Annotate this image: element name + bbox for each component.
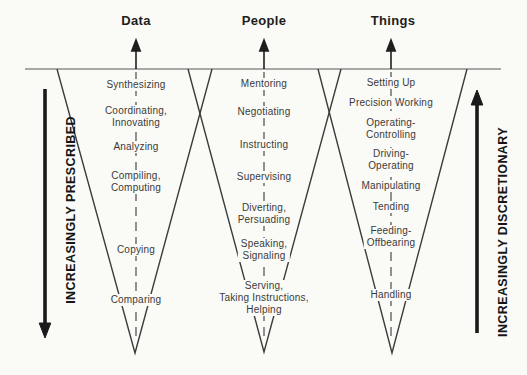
increasingly-prescribed-label: INCREASINGLY PRESCRIBED [64,116,78,304]
data-level-synthesizing: Synthesizing [103,79,168,91]
people-level-mentoring: Mentoring [238,78,290,90]
things-level-precision: Precision Working [346,97,436,109]
people-level-negotiating: Negotiating [235,106,294,118]
people-column-header: People [242,13,286,28]
data-up-arrow-icon [132,40,140,69]
data-level-copying: Copying [114,244,158,256]
data-column-header: Data [121,13,150,28]
things-level-setting-up: Setting Up [364,77,419,89]
increasingly-discretionary-label: INCREASINGLY DISCRETIONARY [496,127,510,337]
diagram-graphics [0,0,527,375]
data-level-analyzing: Analyzing [110,141,161,153]
diagram-canvas: Data People Things Synthesizing Coordina… [0,0,527,375]
things-level-driving: Driving- Operating [365,148,417,172]
things-level-feeding: Feeding- Offbearing [364,225,419,249]
data-level-comparing: Comparing [108,294,165,306]
people-level-supervising: Supervising [234,171,294,183]
things-column-header: Things [371,13,415,28]
discretionary-up-arrow-icon [471,90,483,333]
people-level-speaking: Speaking, Signaling [238,238,290,262]
people-up-arrow-icon [260,40,268,69]
data-level-coordinating: Coordinating, Innovating [102,105,170,129]
people-level-diverting: Diverting, Persuading [235,202,294,226]
things-level-tending: Tending [370,201,412,213]
prescribed-down-arrow-icon [39,89,51,338]
things-level-handling: Handling [367,289,414,301]
people-level-serving: Serving, Taking Instructions, Helping [216,280,312,316]
things-level-operating: Operating- Controlling [363,117,419,141]
things-level-manipulating: Manipulating [358,180,423,192]
data-level-compiling: Compiling, Computing [108,170,164,194]
people-level-instructing: Instructing [237,139,291,151]
things-up-arrow-icon [387,40,395,69]
